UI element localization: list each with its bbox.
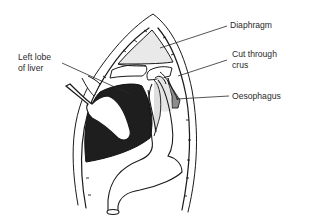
anatomical-diagram bbox=[0, 0, 311, 223]
label-left-lobe-line1: Left lobe bbox=[18, 52, 51, 63]
pylorus-ring bbox=[107, 210, 119, 215]
label-cut-through-crus-line1: Cut through bbox=[232, 49, 277, 60]
label-left-lobe-line2: of liver bbox=[18, 63, 43, 74]
label-cut-through-crus-line2: crus bbox=[232, 60, 248, 71]
label-diaphragm: Diaphragm bbox=[230, 20, 272, 31]
label-oesophagus: Oesophagus bbox=[232, 91, 281, 102]
